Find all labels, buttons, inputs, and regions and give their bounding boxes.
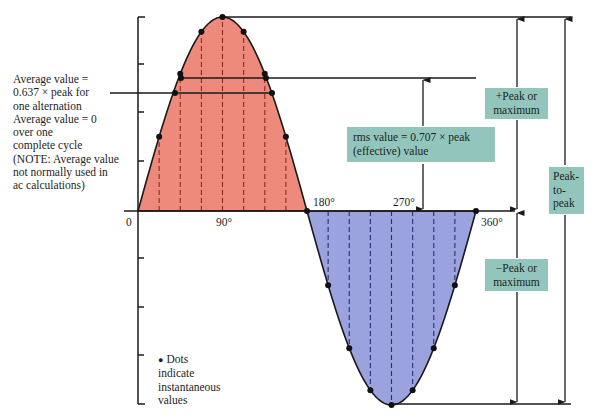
note-line: over one: [13, 126, 119, 139]
label-360-degrees: 360°: [481, 216, 503, 229]
positive-peak-line2: maximum: [485, 104, 548, 118]
note-line: not normally used in: [13, 166, 119, 179]
positive-peak-box: +Peak or maximum: [485, 88, 548, 119]
note-line: ac calculations): [13, 179, 119, 192]
dots-legend-line4: values: [158, 394, 221, 407]
negative-peak-box: −Peak or maximum: [485, 259, 548, 291]
note-line: Average value =: [13, 73, 119, 86]
dots-legend: ●Dots indicate instantaneous values: [158, 353, 221, 407]
origin-label: 0: [126, 216, 132, 229]
sine-wave-diagram: [0, 0, 594, 419]
negative-peak-line1: −Peak or: [485, 262, 548, 276]
average-value-note: Average value = 0.637 × peak for one alt…: [13, 73, 119, 193]
dot-bullet-icon: ●: [158, 355, 163, 365]
label-270-degrees: 270°: [393, 196, 415, 209]
note-line: Average value = 0: [13, 113, 119, 126]
label-90-degrees: 90°: [216, 216, 232, 229]
peak-to-peak-line3: peak: [553, 197, 584, 211]
peak-to-peak-line1: Peak-: [553, 170, 584, 184]
peak-to-peak-box: Peak- to- peak: [549, 167, 584, 214]
rms-box-line2: (effective) value: [353, 145, 489, 159]
note-line: 0.637 × peak for: [13, 86, 119, 99]
peak-to-peak-line2: to-: [553, 184, 584, 198]
dots-legend-line1: Dots: [166, 353, 188, 365]
rms-box-line1: rms value = 0.707 × peak: [353, 131, 489, 145]
negative-peak-line2: maximum: [485, 276, 548, 290]
dots-legend-line2: indicate: [158, 367, 221, 380]
note-line: (NOTE: Average value: [13, 153, 119, 166]
positive-peak-line1: +Peak or: [485, 90, 548, 104]
label-180-degrees: 180°: [313, 196, 335, 209]
dots-legend-line3: instantaneous: [158, 381, 221, 394]
note-line: complete cycle: [13, 139, 119, 152]
rms-value-box: rms value = 0.707 × peak (effective) val…: [347, 127, 495, 162]
note-line: one alternation: [13, 100, 119, 113]
